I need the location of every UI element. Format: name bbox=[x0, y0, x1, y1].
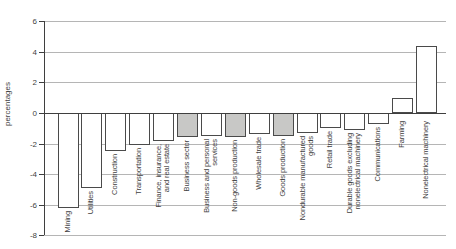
bar-communications bbox=[368, 113, 389, 124]
gridline-y-2 bbox=[44, 144, 446, 145]
gridline-y4 bbox=[44, 52, 446, 53]
category-label-business-and-personal-services: Business and personal services bbox=[203, 139, 219, 213]
category-label-transportation: Transportation bbox=[135, 148, 143, 195]
bar-nondurable-manufactured-goods bbox=[297, 113, 318, 133]
category-label-construction: Construction bbox=[111, 154, 119, 195]
bar-utilities bbox=[81, 113, 102, 188]
y-tick-label: -6 bbox=[7, 201, 37, 210]
bar-nonelectrical-machinery bbox=[416, 46, 437, 113]
bar-farming bbox=[392, 98, 413, 113]
zero-gridline bbox=[44, 113, 446, 114]
bar-wholesale-trade bbox=[249, 113, 270, 134]
y-tick-label: -4 bbox=[7, 170, 37, 179]
bar-chart: percentages 6420-2-4-6-8MiningUtilitiesC… bbox=[0, 0, 456, 249]
category-label-nondurable-manufactured-goods: Nondurable manufactured goods bbox=[299, 136, 315, 220]
y-tick-label: -8 bbox=[7, 231, 37, 240]
bar-transportation bbox=[129, 113, 150, 145]
bar-goods-production bbox=[273, 113, 294, 136]
y-tick-label: 6 bbox=[7, 17, 37, 26]
bar-finance-insurance-and-real-estate bbox=[153, 113, 174, 141]
y-tick bbox=[39, 235, 44, 236]
y-axis-line bbox=[44, 21, 45, 235]
category-label-goods-production: Goods production bbox=[279, 139, 287, 197]
category-label-business-sector: Business sector bbox=[183, 140, 191, 191]
gridline-y-6 bbox=[44, 205, 446, 206]
y-tick-label: 2 bbox=[7, 78, 37, 87]
bar-business-and-personal-services bbox=[201, 113, 222, 136]
category-label-communications: Communications bbox=[374, 127, 382, 181]
gridline-y6 bbox=[44, 21, 446, 22]
category-label-farming: Farming bbox=[398, 121, 406, 148]
category-label-nonelectrical-machinery: Nonelectrical machinery bbox=[422, 121, 430, 199]
y-axis-title: percentages bbox=[3, 82, 12, 126]
category-label-mining: Mining bbox=[64, 211, 72, 233]
category-label-finance-insurance-and-real-estate: Finance, insurance, and real estate bbox=[155, 144, 171, 208]
bar-retail-trade bbox=[320, 113, 341, 128]
bar-non-goods-production bbox=[225, 113, 246, 137]
gridline-y-8 bbox=[44, 235, 446, 236]
y-tick-label: 4 bbox=[7, 48, 37, 57]
category-label-durable-goods-excluding-nonelectrical-machinery: Durable goods excluding nonelectrical ma… bbox=[346, 133, 362, 213]
category-label-utilities: Utilities bbox=[87, 191, 95, 214]
y-tick-label: 0 bbox=[7, 109, 37, 118]
gridline-y2 bbox=[44, 82, 446, 83]
gridline-y-4 bbox=[44, 174, 446, 175]
bar-mining bbox=[58, 113, 79, 208]
y-tick-label: -2 bbox=[7, 140, 37, 149]
bar-durable-goods-excluding-nonelectrical-machinery bbox=[344, 113, 365, 130]
bar-construction bbox=[105, 113, 126, 151]
category-label-non-goods-production: Non-goods production bbox=[231, 140, 239, 212]
category-label-wholesale-trade: Wholesale trade bbox=[255, 137, 263, 190]
category-label-retail-trade: Retail trade bbox=[326, 131, 334, 168]
bar-business-sector bbox=[177, 113, 198, 137]
